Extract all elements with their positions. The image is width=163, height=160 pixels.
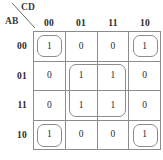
kmap-cell: 0 bbox=[129, 62, 161, 92]
column-header-0: 00 bbox=[33, 16, 65, 30]
kmap-cell: 1 bbox=[66, 91, 98, 121]
kmap-cell: 1 bbox=[66, 62, 98, 92]
kmap-cell: 1 bbox=[98, 62, 130, 92]
kmap-cell: 1 bbox=[129, 121, 161, 151]
kmap-row: 0 1 1 0 bbox=[34, 91, 161, 121]
kmap-cell: 0 bbox=[129, 91, 161, 121]
row-header-3: 10 bbox=[0, 120, 31, 150]
column-header-3: 10 bbox=[129, 16, 161, 30]
kmap-cell: 1 bbox=[98, 91, 130, 121]
column-header-2: 11 bbox=[97, 16, 129, 30]
kmap-row: 1 0 0 1 bbox=[34, 121, 161, 151]
kmap-cell: 0 bbox=[34, 62, 66, 92]
kmap-cell: 0 bbox=[66, 121, 98, 151]
kmap-cell: 0 bbox=[34, 91, 66, 121]
row-header-column: 00 01 11 10 bbox=[0, 31, 31, 150]
kmap-cell: 1 bbox=[34, 121, 66, 151]
column-header-1: 01 bbox=[65, 16, 97, 30]
column-variable-label: CD bbox=[21, 3, 35, 13]
kmap-cell: 1 bbox=[34, 32, 66, 62]
column-header-row: 00 01 11 10 bbox=[33, 16, 161, 30]
kmap-grid: 1 0 0 1 0 1 1 0 0 1 1 0 1 0 0 1 bbox=[33, 31, 161, 150]
kmap-cell: 0 bbox=[98, 32, 130, 62]
kmap-cell: 0 bbox=[98, 121, 130, 151]
karnaugh-map-diagram: CD AB 00 01 11 10 00 01 11 10 1 0 0 1 0 … bbox=[0, 0, 163, 160]
kmap-row: 0 1 1 0 bbox=[34, 62, 161, 92]
kmap-cell: 1 bbox=[129, 32, 161, 62]
kmap-row: 1 0 0 1 bbox=[34, 32, 161, 62]
kmap-cell: 0 bbox=[66, 32, 98, 62]
row-header-1: 01 bbox=[0, 61, 31, 91]
row-header-0: 00 bbox=[0, 31, 31, 61]
row-header-2: 11 bbox=[0, 91, 31, 121]
row-variable-label: AB bbox=[5, 17, 19, 27]
